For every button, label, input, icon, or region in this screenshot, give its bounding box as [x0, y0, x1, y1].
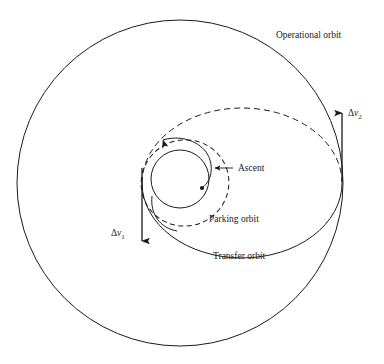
transfer-orbit-label: Transfer orbit [213, 251, 266, 261]
ascent-label: Ascent [238, 163, 265, 173]
orbit-diagram-figure: Operational orbit Ascent Parking orbit T… [0, 0, 384, 364]
parking-orbit-solid-arc [152, 196, 177, 231]
operational-orbit-circle [17, 20, 343, 346]
central-body-circle [151, 150, 209, 208]
delta-v2-label: Δv2 [348, 108, 362, 121]
delta-v1-subscript: 1 [121, 233, 125, 241]
parking-orbit-label: Parking orbit [209, 214, 259, 224]
delta-v2-subscript: 2 [358, 113, 362, 121]
delta-v1-label: Δv1 [111, 228, 125, 241]
operational-orbit-label: Operational orbit [276, 30, 342, 40]
launch-point-dot [200, 186, 204, 190]
orbit-diagram-canvas: Operational orbit Ascent Parking orbit T… [0, 0, 384, 364]
